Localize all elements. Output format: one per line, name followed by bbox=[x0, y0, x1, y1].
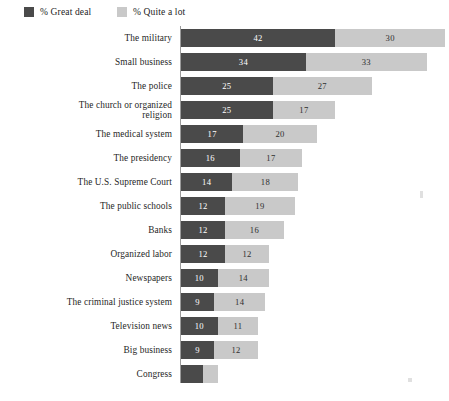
legend-swatch-great-deal bbox=[24, 7, 34, 17]
category-label: Television news bbox=[0, 314, 172, 338]
bar-value-label: 11 bbox=[233, 322, 242, 331]
bar-value-label: 14 bbox=[202, 178, 211, 187]
bar-value-label: 9 bbox=[195, 298, 200, 307]
chart-row: The criminal justice system914 bbox=[0, 290, 449, 314]
bar-segment-quite-a-lot: 17 bbox=[273, 101, 335, 119]
category-label: The public schools bbox=[0, 194, 172, 218]
bar-segment-great-deal: 10 bbox=[181, 269, 218, 287]
bar-value-label: 20 bbox=[275, 130, 284, 139]
bar-value-label: 12 bbox=[231, 346, 240, 355]
stacked-bar: 3433 bbox=[181, 53, 427, 71]
category-label: Small business bbox=[0, 50, 172, 74]
legend-item-quite-a-lot: % Quite a lot bbox=[117, 4, 185, 20]
stacked-bar: 912 bbox=[181, 341, 258, 359]
stacked-bar: 2517 bbox=[181, 101, 335, 119]
scan-artifact bbox=[408, 378, 412, 382]
stacked-bar: 1216 bbox=[181, 221, 284, 239]
chart-row: Newspapers1014 bbox=[0, 266, 449, 290]
category-label: Organized labor bbox=[0, 242, 172, 266]
bar-segment-quite-a-lot: 19 bbox=[225, 197, 295, 215]
category-label: The police bbox=[0, 74, 172, 98]
bar-segment-great-deal: 12 bbox=[181, 221, 225, 239]
bar-value-label: 10 bbox=[195, 274, 204, 283]
chart-row: Big business912 bbox=[0, 338, 449, 362]
category-label: Newspapers bbox=[0, 266, 172, 290]
category-label: The military bbox=[0, 26, 172, 50]
bar-value-label: 42 bbox=[253, 34, 262, 43]
bar-value-label: 18 bbox=[261, 178, 270, 187]
bar-segment-quite-a-lot: 18 bbox=[232, 173, 298, 191]
stacked-bar: 914 bbox=[181, 293, 265, 311]
bar-value-label: 17 bbox=[208, 130, 217, 139]
bar-value-label: 17 bbox=[266, 154, 275, 163]
bar-segment-quite-a-lot: 33 bbox=[306, 53, 427, 71]
stacked-bar: 4230 bbox=[181, 29, 445, 47]
legend-swatch-quite-a-lot bbox=[117, 7, 127, 17]
chart-row: Organized labor1212 bbox=[0, 242, 449, 266]
bar-value-label: 12 bbox=[198, 226, 207, 235]
bar-segment-quite-a-lot: 11 bbox=[218, 317, 258, 335]
chart-row: Congress bbox=[0, 362, 449, 386]
bar-segment-great-deal: 14 bbox=[181, 173, 232, 191]
bar-segment-great-deal bbox=[181, 365, 203, 383]
category-label: The presidency bbox=[0, 146, 172, 170]
bar-value-label: 12 bbox=[242, 250, 251, 259]
bar-segment-quite-a-lot: 20 bbox=[243, 125, 316, 143]
bar-segment-great-deal: 10 bbox=[181, 317, 218, 335]
chart-row: Small business3433 bbox=[0, 50, 449, 74]
bar-value-label: 14 bbox=[235, 298, 244, 307]
bar-segment-quite-a-lot: 16 bbox=[225, 221, 284, 239]
bar-value-label: 10 bbox=[195, 322, 204, 331]
bar-segment-quite-a-lot bbox=[203, 365, 218, 383]
bar-segment-quite-a-lot: 17 bbox=[240, 149, 302, 167]
bar-segment-quite-a-lot: 12 bbox=[214, 341, 258, 359]
bar-segment-great-deal: 9 bbox=[181, 341, 214, 359]
chart-legend: % Great deal % Quite a lot bbox=[0, 4, 449, 20]
bar-value-label: 16 bbox=[250, 226, 259, 235]
stacked-bar: 1418 bbox=[181, 173, 298, 191]
category-label: Big business bbox=[0, 338, 172, 362]
bar-segment-great-deal: 17 bbox=[181, 125, 243, 143]
stacked-bar: 2527 bbox=[181, 77, 372, 95]
category-label: The U.S. Supreme Court bbox=[0, 170, 172, 194]
bar-value-label: 9 bbox=[195, 346, 200, 355]
chart-row: The military4230 bbox=[0, 26, 449, 50]
chart-plot-area: The military4230Small business3433The po… bbox=[0, 26, 449, 401]
chart-row: The police2527 bbox=[0, 74, 449, 98]
bar-segment-quite-a-lot: 27 bbox=[273, 77, 372, 95]
bar-segment-quite-a-lot: 12 bbox=[225, 245, 269, 263]
bar-segment-great-deal: 25 bbox=[181, 77, 273, 95]
legend-label-great-deal: % Great deal bbox=[40, 7, 91, 17]
bar-segment-great-deal: 42 bbox=[181, 29, 335, 47]
bar-value-label: 25 bbox=[222, 106, 231, 115]
chart-row: The U.S. Supreme Court1418 bbox=[0, 170, 449, 194]
bar-value-label: 30 bbox=[386, 34, 395, 43]
bar-segment-great-deal: 12 bbox=[181, 245, 225, 263]
scan-artifact bbox=[420, 191, 423, 198]
stacked-bar: 1014 bbox=[181, 269, 269, 287]
bar-segment-quite-a-lot: 14 bbox=[218, 269, 269, 287]
bar-segment-great-deal: 12 bbox=[181, 197, 225, 215]
bar-segment-quite-a-lot: 30 bbox=[335, 29, 445, 47]
bar-segment-great-deal: 34 bbox=[181, 53, 306, 71]
bar-segment-great-deal: 25 bbox=[181, 101, 273, 119]
chart-row: The church or organized religion2517 bbox=[0, 98, 449, 122]
stacked-bar: 1219 bbox=[181, 197, 295, 215]
bar-value-label: 25 bbox=[222, 82, 231, 91]
stacked-bar: 1617 bbox=[181, 149, 302, 167]
stacked-bar: 1212 bbox=[181, 245, 269, 263]
bar-segment-great-deal: 9 bbox=[181, 293, 214, 311]
bar-value-label: 16 bbox=[206, 154, 215, 163]
chart-row: The medical system1720 bbox=[0, 122, 449, 146]
bar-segment-quite-a-lot: 14 bbox=[214, 293, 265, 311]
chart-row: Television news1011 bbox=[0, 314, 449, 338]
bar-segment-great-deal: 16 bbox=[181, 149, 240, 167]
category-label: Banks bbox=[0, 218, 172, 242]
stacked-bar: 1720 bbox=[181, 125, 317, 143]
category-label: Congress bbox=[0, 362, 172, 386]
bar-value-label: 17 bbox=[299, 106, 308, 115]
chart-row: The public schools1219 bbox=[0, 194, 449, 218]
bar-value-label: 33 bbox=[362, 58, 371, 67]
bar-value-label: 27 bbox=[318, 82, 327, 91]
stacked-bar: 1011 bbox=[181, 317, 258, 335]
